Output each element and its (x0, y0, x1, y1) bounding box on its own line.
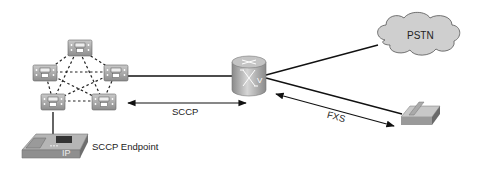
router-analogphone-link (266, 78, 402, 114)
sccp-link-label: SCCP (172, 106, 198, 117)
call-manager-icon (33, 65, 57, 81)
svg-text:V: V (257, 76, 263, 85)
svg-text:IP: IP (62, 148, 71, 158)
pstn-label: PSTN (407, 30, 434, 41)
ip-phone-label: SCCP Endpoint (92, 141, 158, 152)
call-manager-icon (41, 94, 65, 110)
links (53, 45, 402, 137)
ip-phone-icon: IP (22, 134, 88, 158)
voice-router-icon: V (232, 56, 266, 96)
analog-phone-icon (401, 102, 440, 125)
call-manager-icon (68, 40, 92, 56)
call-manager-icon (104, 65, 128, 81)
router-pstn-link (266, 45, 378, 75)
call-manager-icon (92, 94, 116, 110)
